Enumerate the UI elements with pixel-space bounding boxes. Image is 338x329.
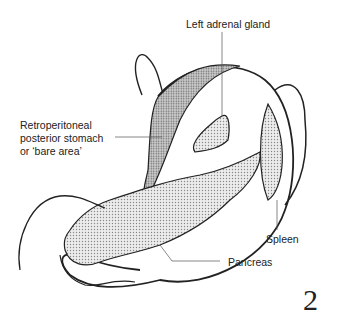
label-retroperitoneal-line2: posterior stomach	[20, 132, 103, 144]
label-spleen: Spleen	[266, 233, 299, 245]
stomach-diagram	[0, 0, 338, 329]
spleen-shape	[261, 104, 283, 200]
label-retroperitoneal-line3: or ‘bare area’	[20, 145, 82, 157]
figure-number: 2	[303, 283, 318, 317]
label-left-adrenal-gland: Left adrenal gland	[186, 18, 270, 30]
label-retroperitoneal-line1: Retroperitoneal	[20, 119, 92, 131]
pancreas-leader-line	[160, 245, 220, 261]
label-pancreas: Pancreas	[228, 256, 272, 268]
left-lobe-outline	[136, 55, 165, 98]
left-adrenal-gland-shape	[193, 115, 229, 152]
